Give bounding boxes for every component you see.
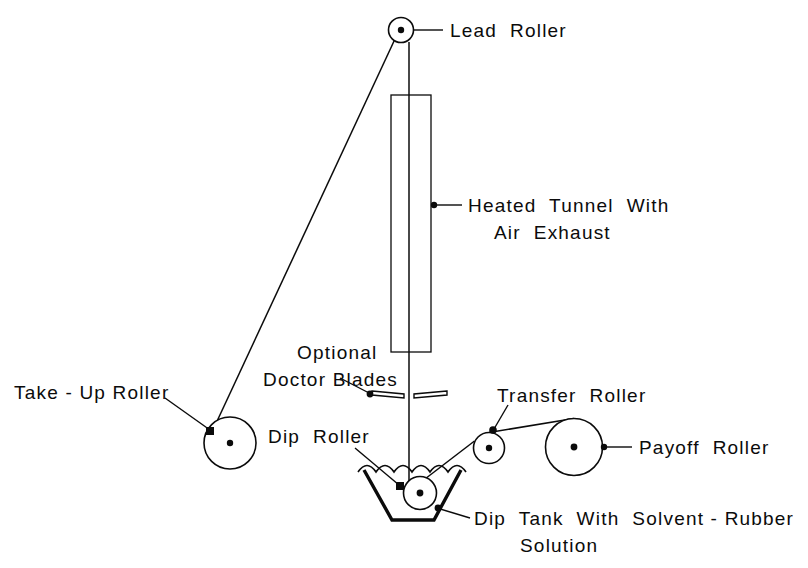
diagram-canvas: Lead Roller Heated Tunnel With Air Exhau… xyxy=(0,0,808,568)
leader-dot-transfer-roller xyxy=(489,426,497,434)
leader-dip-tank xyxy=(437,508,470,518)
doctor-blade-left xyxy=(372,391,404,398)
labels-group: Lead Roller Heated Tunnel With Air Exhau… xyxy=(14,20,794,556)
leader-dip-roller xyxy=(355,448,399,485)
label-dip-tank-line2: Solution xyxy=(520,535,598,556)
label-heated-tunnel-line1: Heated Tunnel With xyxy=(468,195,669,216)
leader-dot-heated-tunnel xyxy=(431,202,437,208)
leader-dot-payoff-roller xyxy=(601,444,607,450)
dip-coating-diagram: Lead Roller Heated Tunnel With Air Exhau… xyxy=(0,0,808,568)
label-payoff-roller: Payoff Roller xyxy=(639,437,770,458)
leader-dot-doctor-blades xyxy=(367,391,374,398)
label-optional-line1: Optional xyxy=(297,342,377,363)
leader-transfer-roller xyxy=(494,405,508,429)
label-heated-tunnel-line2: Air Exhaust xyxy=(494,222,611,243)
liquid-surface-wave xyxy=(358,466,466,473)
heated-tunnel xyxy=(391,95,431,352)
label-lead-roller: Lead Roller xyxy=(450,20,567,41)
label-take-up-roller: Take - Up Roller xyxy=(14,382,169,403)
payoff-roller xyxy=(546,419,603,476)
label-dip-roller: Dip Roller xyxy=(268,426,370,447)
dip-roller xyxy=(404,477,437,510)
leader-dot-dip-roller xyxy=(396,482,404,490)
rollers-group xyxy=(204,18,603,510)
label-optional-doctor-blades: Doctor Blades xyxy=(263,369,398,390)
leader-take-up-roller xyxy=(165,398,210,430)
web-path-group xyxy=(212,39,574,492)
take-up-roller xyxy=(204,417,256,469)
label-dip-tank-line1: Dip Tank With Solvent - Rubber xyxy=(474,508,794,529)
leader-dot-take-up-roller xyxy=(206,427,214,435)
doctor-blade-right xyxy=(414,391,447,398)
lead-roller xyxy=(389,18,414,43)
transfer-roller xyxy=(474,433,505,464)
label-transfer-roller: Transfer Roller xyxy=(497,385,646,406)
leader-dot-dip-tank xyxy=(435,505,442,512)
